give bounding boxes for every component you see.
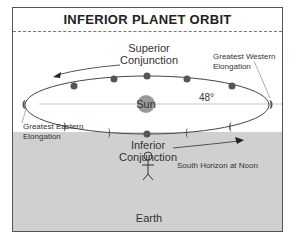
label-line: Conjunction [108, 151, 188, 163]
label-line: Greatest Western [213, 52, 276, 62]
planet-icon [229, 83, 236, 90]
arrow-head-icon [235, 137, 244, 144]
sun-label: Sun [134, 98, 158, 110]
label-line: Greatest Eastern [23, 122, 83, 132]
planet-icon [144, 131, 151, 138]
angle-label: 48° [199, 93, 214, 103]
leader-line [22, 109, 26, 123]
earth-label: Earth [134, 212, 164, 224]
horizon-label: South Horizon at Noon [177, 161, 258, 171]
orbit-arrow-top [57, 65, 120, 75]
inferior-conjunction-label: Inferior Conjunction [108, 139, 188, 163]
label-line: Elongation [23, 132, 83, 142]
planet-icon [111, 76, 118, 83]
crescent-icon [229, 122, 232, 132]
planet-western-icon [269, 100, 273, 109]
greatest-western-label: Greatest Western Elongation [213, 52, 276, 72]
diagram-frame: INFERIOR PLANET ORBIT [12, 7, 283, 232]
label-line: Elongation [213, 62, 276, 72]
planet-icon [144, 73, 151, 80]
label-line: Inferior [108, 139, 188, 151]
label-line: Superior [109, 42, 189, 54]
arrow-head-icon [53, 72, 61, 78]
crescent-icon [186, 128, 188, 138]
greatest-eastern-label: Greatest Eastern Elongation [23, 122, 83, 142]
planet-icon [71, 83, 78, 90]
planet-icon [184, 76, 191, 83]
superior-conjunction-label: Superior Conjunction [109, 42, 189, 66]
label-line: Conjunction [109, 54, 189, 66]
